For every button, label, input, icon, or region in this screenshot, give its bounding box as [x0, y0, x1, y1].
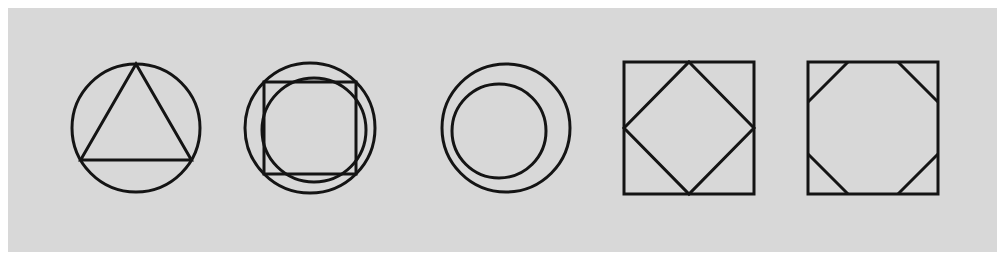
figure-2-circle-square-circle-nest	[198, 0, 408, 244]
middle-square	[264, 82, 356, 174]
outer-square	[624, 62, 754, 194]
corner-chord-bottom-left	[808, 154, 848, 194]
figure-sheet	[0, 0, 1008, 273]
figure-3-concentric-circles-annulus	[408, 0, 608, 244]
figure-4-square-with-inscribed-diamond	[608, 0, 808, 244]
figure-5-square-with-cut-corners	[798, 0, 998, 244]
inscribed-diamond	[624, 62, 754, 194]
inner-circle	[452, 84, 546, 178]
corner-chord-bottom-right	[898, 154, 938, 194]
inner-circle	[262, 78, 366, 182]
figure-1-circle-with-inscribed-triangle	[8, 0, 208, 244]
corner-chord-top-right	[898, 62, 938, 102]
outer-circle	[72, 64, 200, 192]
corner-chord-top-left	[808, 62, 848, 102]
